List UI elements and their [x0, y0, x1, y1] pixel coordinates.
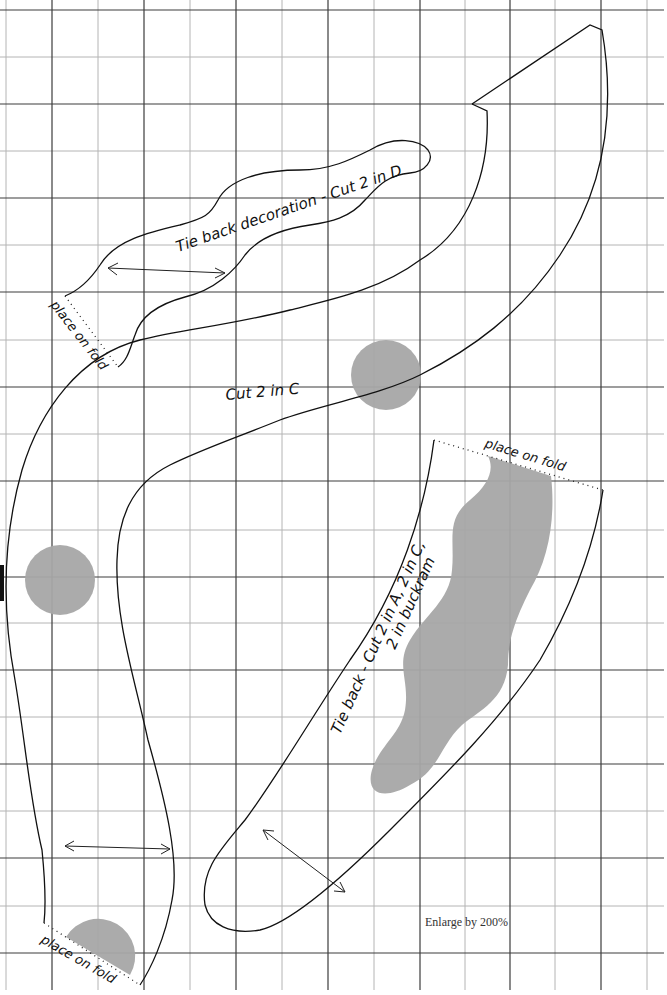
- grainline-arrow: [108, 263, 225, 278]
- pattern-sheet: Tie back decoration - Cut 2 in D place o…: [0, 0, 667, 995]
- edge-mark: [0, 565, 4, 601]
- marker-circle-upper: [351, 340, 421, 410]
- shading: [25, 340, 552, 975]
- grid: [0, 0, 664, 990]
- fold-label: place on fold: [47, 297, 112, 374]
- piece-tie-back-decoration: Tie back decoration - Cut 2 in D place o…: [47, 141, 430, 374]
- enlarge-instruction: Enlarge by 200%: [425, 915, 508, 929]
- piece-label: Tie back decoration - Cut 2 in D: [173, 161, 404, 255]
- grainline-arrow: [65, 841, 170, 854]
- grainline-arrow: [263, 830, 345, 892]
- marker-circle-left: [25, 545, 95, 615]
